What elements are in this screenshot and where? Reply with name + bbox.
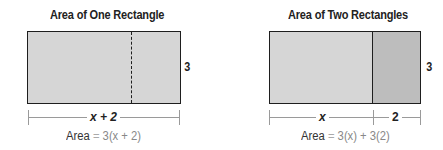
side-length-label: 3 bbox=[426, 60, 432, 74]
rectangle-2 bbox=[372, 32, 420, 103]
area-expression: 3(x) + 3(2) bbox=[338, 129, 390, 143]
side-length-label: 3 bbox=[184, 60, 190, 74]
width-label-2: 2 bbox=[389, 110, 402, 124]
width-label: x + 2 bbox=[87, 110, 120, 124]
rectangle bbox=[27, 31, 181, 104]
area-expression: 3(x + 2) bbox=[103, 129, 141, 143]
equals-sign: = bbox=[328, 129, 335, 143]
area-word: Area bbox=[301, 129, 325, 143]
dashed-divider bbox=[131, 32, 132, 103]
diagram-title: Area of One Rectangle bbox=[50, 8, 164, 22]
area-formula: Area = 3(x + 2) bbox=[66, 129, 141, 143]
area-word: Area bbox=[66, 129, 90, 143]
equals-sign: = bbox=[93, 129, 100, 143]
width-label-x: x bbox=[316, 110, 329, 124]
diagram-title: Area of Two Rectangles bbox=[288, 8, 408, 22]
area-formula: Area = 3(x) + 3(2) bbox=[301, 129, 390, 143]
